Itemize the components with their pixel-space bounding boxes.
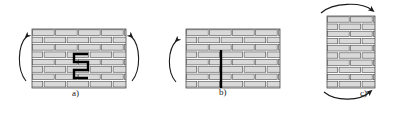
brick (351, 60, 373, 65)
brick (351, 31, 373, 36)
brick (328, 17, 350, 22)
brick (113, 81, 135, 87)
rotation-arrow-left-b (169, 40, 177, 82)
rotation-arrow-top-c (321, 4, 372, 13)
brick (279, 45, 301, 51)
brick (33, 30, 55, 36)
brick (233, 45, 255, 51)
brick (328, 31, 350, 36)
brick (187, 45, 209, 51)
brick (279, 30, 301, 36)
brick (44, 67, 66, 73)
brick (267, 37, 289, 43)
brick (102, 59, 124, 65)
brick (125, 45, 147, 51)
brick (256, 45, 278, 51)
brick (90, 37, 112, 43)
brick (244, 81, 266, 87)
brick (279, 59, 301, 65)
brick (90, 81, 112, 87)
brick (187, 74, 209, 80)
brick (33, 74, 55, 80)
brick (187, 59, 209, 65)
rotation-arrow-right-a (131, 36, 139, 81)
brick (113, 37, 135, 43)
brick (198, 81, 220, 87)
brick (374, 17, 394, 22)
brick (279, 74, 301, 80)
brick (56, 45, 78, 51)
wall-panel-b (175, 29, 300, 88)
brick (256, 30, 278, 36)
brick (244, 52, 266, 58)
brick (233, 30, 255, 36)
brick (44, 52, 66, 58)
brick (198, 52, 220, 58)
brick (362, 82, 384, 87)
panel-label-a: a) (72, 88, 79, 98)
brick (267, 81, 289, 87)
brick (267, 52, 289, 58)
brick (339, 24, 361, 29)
brick (33, 59, 55, 65)
brick (362, 38, 384, 43)
brick (113, 67, 135, 73)
brick (351, 74, 373, 79)
brick (362, 67, 384, 72)
brick (362, 53, 384, 58)
brick (374, 46, 394, 51)
brick (198, 67, 220, 73)
brick (362, 24, 384, 29)
brick (67, 37, 89, 43)
brick (374, 60, 394, 65)
brick (328, 60, 350, 65)
brick (210, 45, 232, 51)
brick (233, 59, 255, 65)
brick (339, 38, 361, 43)
brick (79, 45, 101, 51)
brick (374, 31, 394, 36)
brick (221, 37, 243, 43)
brick (328, 74, 350, 79)
rotation-arrow-left-a (19, 36, 27, 81)
brick (198, 37, 220, 43)
brick (125, 30, 147, 36)
brick (44, 81, 66, 87)
brick (56, 30, 78, 36)
brick (244, 37, 266, 43)
brick (351, 46, 373, 51)
brick (339, 82, 361, 87)
brick (102, 74, 124, 80)
brick-courses-c (316, 17, 394, 87)
brick (339, 67, 361, 72)
brick (210, 30, 232, 36)
brick (244, 67, 266, 73)
brick (221, 52, 243, 58)
brick (102, 30, 124, 36)
brick (90, 52, 112, 58)
brick (67, 81, 89, 87)
brick (125, 59, 147, 65)
brick (44, 37, 66, 43)
brick (351, 17, 373, 22)
brick (90, 67, 112, 73)
brick-courses-b (175, 30, 300, 87)
panel-label-b: b) (219, 87, 227, 97)
masonry-wall-failure-modes-figure (0, 0, 394, 120)
brick (102, 45, 124, 51)
brick (256, 59, 278, 65)
brick (339, 53, 361, 58)
brick (221, 67, 243, 73)
brick (33, 45, 55, 51)
brick (328, 46, 350, 51)
brick (79, 30, 101, 36)
brick (187, 30, 209, 36)
brick (374, 74, 394, 79)
panel-label-c: c) (360, 88, 367, 98)
wall-panel-c (316, 16, 394, 88)
brick (256, 74, 278, 80)
brick (233, 74, 255, 80)
brick (267, 67, 289, 73)
brick (113, 52, 135, 58)
